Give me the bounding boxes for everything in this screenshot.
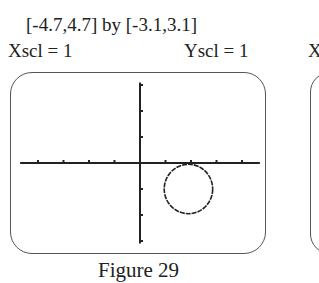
xscl-label: Xscl = 1 — [8, 40, 73, 62]
yscl-label: Yscl = 1 — [184, 40, 249, 62]
next-figure-partial-label: X — [308, 40, 319, 62]
circle-curve — [164, 164, 212, 213]
figure-caption: Figure 29 — [98, 258, 179, 283]
next-calculator-screen-partial — [310, 72, 319, 254]
graph-plot — [10, 72, 266, 254]
window-range-label: [-4.7,4.7] by [-3.1,3.1] — [26, 14, 197, 36]
